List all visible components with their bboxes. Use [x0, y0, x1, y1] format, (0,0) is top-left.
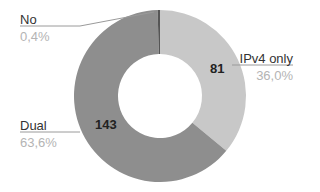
donut-slices — [74, 10, 246, 182]
label-ipv4-only: IPv4 only — [240, 51, 293, 66]
label-dual: Dual — [20, 118, 47, 133]
percent-dual: 63,6% — [20, 135, 57, 150]
percent-ipv4-only: 36,0% — [256, 68, 293, 83]
slice-ipv4-only — [160, 10, 246, 151]
value-dual: 143 — [95, 117, 117, 132]
percent-no: 0,4% — [20, 29, 50, 44]
value-ipv4-only: 81 — [210, 61, 224, 76]
label-no: No — [20, 12, 37, 27]
